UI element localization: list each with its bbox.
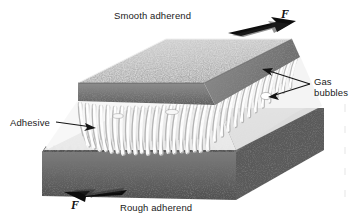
- label-rough-adherend: Rough adherend: [120, 202, 192, 213]
- label-gas-bubbles-line2: bubbles: [314, 87, 348, 98]
- label-force-bottom: F: [71, 198, 79, 213]
- label-smooth-adherend: Smooth adherend: [114, 10, 191, 21]
- adhesive-bond-diagram: [0, 0, 356, 220]
- label-gas-bubbles-line1: Gas: [314, 76, 348, 87]
- label-force-top: F: [281, 7, 289, 22]
- label-gas-bubbles: Gas bubbles: [314, 76, 348, 98]
- label-adhesive: Adhesive: [10, 117, 50, 128]
